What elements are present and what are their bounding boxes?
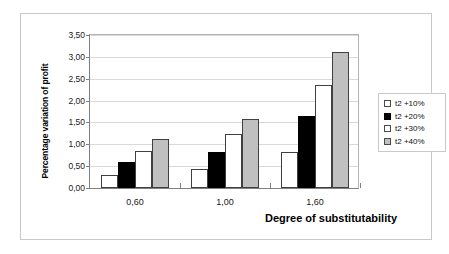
bar bbox=[118, 162, 135, 188]
legend-item: t2 +10% bbox=[384, 98, 441, 109]
y-tick-label: 2,50 bbox=[68, 74, 85, 84]
legend-label: t2 +20% bbox=[395, 112, 425, 121]
y-tick-label: 2,00 bbox=[68, 96, 85, 106]
bar bbox=[332, 52, 349, 188]
x-group-separator bbox=[270, 183, 271, 188]
y-tick-label: 3,00 bbox=[68, 52, 85, 62]
bar bbox=[101, 175, 118, 188]
legend-swatch-icon bbox=[384, 125, 391, 132]
y-tick-label: 1,50 bbox=[68, 117, 85, 127]
bar bbox=[298, 116, 315, 188]
y-tick-mark bbox=[86, 57, 90, 58]
legend-swatch-icon bbox=[384, 138, 391, 145]
legend-swatch-icon bbox=[384, 100, 391, 107]
bar bbox=[152, 139, 169, 188]
y-tick-label: 0,50 bbox=[68, 161, 85, 171]
gridline bbox=[90, 57, 358, 58]
chart-frame: Percentage variation of profit 0,000,501… bbox=[20, 13, 432, 240]
y-axis-title: Percentage variation of profit bbox=[40, 41, 50, 201]
bar bbox=[281, 152, 298, 188]
gridline bbox=[90, 35, 358, 36]
y-tick-mark bbox=[86, 188, 90, 189]
bar bbox=[135, 151, 152, 188]
legend-label: t2 +40% bbox=[395, 137, 425, 146]
gridline bbox=[90, 79, 358, 80]
bar bbox=[208, 152, 225, 188]
y-tick-label: 0,00 bbox=[68, 183, 85, 193]
y-tick-mark bbox=[86, 166, 90, 167]
x-group-separator bbox=[360, 183, 361, 188]
chart-legend: t2 +10%t2 +20%t2 +30%t2 +40% bbox=[378, 93, 446, 152]
legend-swatch-icon bbox=[384, 113, 391, 120]
y-tick-mark bbox=[86, 35, 90, 36]
legend-label: t2 +30% bbox=[395, 124, 425, 133]
chart-figure: Percentage variation of profit 0,000,501… bbox=[0, 0, 449, 254]
legend-item: t2 +20% bbox=[384, 111, 441, 122]
legend-label: t2 +10% bbox=[395, 99, 425, 108]
y-tick-mark bbox=[86, 144, 90, 145]
x-tick-label: 1,00 bbox=[216, 197, 234, 207]
x-group-separator bbox=[180, 183, 181, 188]
y-tick-mark bbox=[86, 79, 90, 80]
legend-item: t2 +30% bbox=[384, 123, 441, 134]
bar bbox=[242, 119, 259, 188]
y-tick-mark bbox=[86, 122, 90, 123]
x-axis-title: Degree of substitutability bbox=[236, 212, 426, 224]
plot-area: 0,000,501,001,502,002,503,003,50 0,601,0… bbox=[89, 34, 359, 189]
y-tick-mark bbox=[86, 101, 90, 102]
y-tick-label: 3,50 bbox=[68, 30, 85, 40]
x-tick-label: 1,60 bbox=[306, 197, 324, 207]
x-tick-label: 0,60 bbox=[126, 197, 144, 207]
bar bbox=[225, 134, 242, 188]
bar bbox=[191, 169, 208, 188]
bar bbox=[315, 85, 332, 188]
y-tick-label: 1,00 bbox=[68, 139, 85, 149]
legend-item: t2 +40% bbox=[384, 136, 441, 147]
